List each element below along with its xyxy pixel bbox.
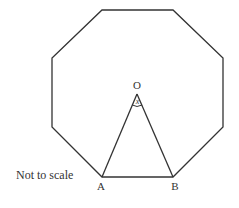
segment-ob (137, 94, 173, 177)
vertex-a-label: A (97, 180, 105, 192)
not-to-scale-note: Not to scale (16, 168, 73, 182)
vertex-b-label: B (171, 180, 178, 192)
angle-label: x (135, 97, 140, 106)
segment-oa (102, 94, 137, 177)
octagon-diagram: O x A B Not to scale (0, 0, 239, 208)
center-label: O (133, 79, 141, 91)
octagon (52, 10, 223, 177)
